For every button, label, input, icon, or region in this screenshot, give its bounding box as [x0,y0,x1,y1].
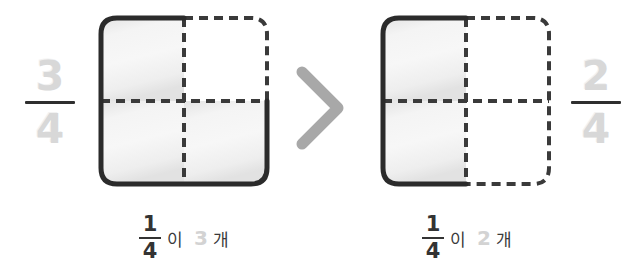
right-fraction-denominator: 4 [563,107,629,151]
right-shaded-cells [383,18,466,184]
left-caption: 1 4 이 3 개 [74,209,294,267]
left-caption-unit-denominator: 4 [143,241,158,262]
right-caption: 1 4 이 2 개 [357,209,577,267]
right-caption-unit-fraction: 1 4 [422,214,444,262]
right-fraction-area-model [377,12,555,190]
chevron-path [302,72,338,144]
left-cell-1-0 [101,101,184,184]
right-cell-1-0 [383,101,466,184]
right-caption-count: 2 [477,226,491,250]
right-cell-0-0 [383,18,466,101]
right-caption-unit-denominator: 4 [426,241,441,262]
greater-than-icon [288,62,352,154]
right-fraction-numerator: 2 [563,54,629,98]
left-caption-count: 3 [194,226,208,250]
right-caption-particle: 이 [450,226,466,251]
right-caption-counter: 개 [496,226,512,251]
right-fraction-bar [571,101,621,104]
left-cell-0-0 [101,18,184,101]
left-fraction-area-model [95,12,273,190]
right-caption-unit-numerator: 1 [426,214,441,235]
left-caption-unit-fraction: 1 4 [139,214,161,262]
left-caption-particle: 이 [167,226,183,251]
left-cell-1-1 [184,101,267,184]
left-fraction-numerator: 3 [17,54,83,98]
right-fraction-label: 2 4 [563,54,629,151]
left-caption-counter: 개 [213,226,229,251]
left-fraction-label: 3 4 [17,54,83,151]
fraction-comparison-diagram: 3 4 [0,0,642,276]
left-fraction-denominator: 4 [17,107,83,151]
left-fraction-bar [25,101,75,104]
left-caption-unit-numerator: 1 [143,214,158,235]
